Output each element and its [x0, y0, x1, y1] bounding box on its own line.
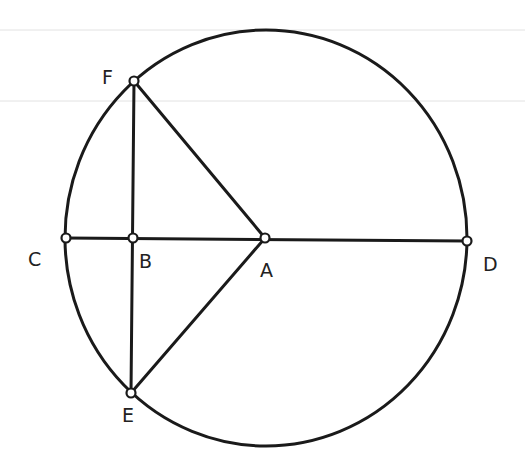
- label-F: F: [102, 66, 113, 88]
- label-D: D: [483, 253, 498, 275]
- label-B: B: [139, 250, 152, 272]
- point-E: [127, 389, 136, 398]
- radius-FA: [134, 81, 265, 238]
- point-F: [130, 77, 139, 86]
- geometry-diagram: A B C D E F: [0, 0, 525, 467]
- label-C: C: [28, 248, 41, 270]
- point-B: [129, 234, 138, 243]
- label-A: A: [260, 259, 273, 281]
- point-D: [463, 237, 472, 246]
- label-E: E: [122, 404, 134, 426]
- point-C: [62, 234, 71, 243]
- point-A: [261, 234, 270, 243]
